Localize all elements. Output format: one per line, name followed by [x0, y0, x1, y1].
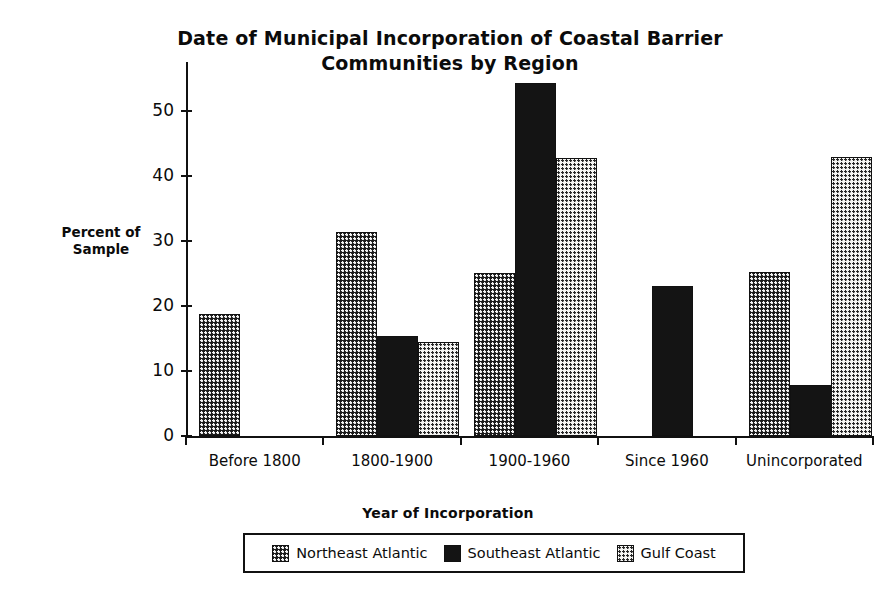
bar-northeast-atlantic — [749, 272, 790, 436]
x-axis-tick — [185, 436, 187, 445]
legend-swatch-icon-gulf-coast — [617, 545, 634, 562]
y-axis-tick-label: 30 — [134, 230, 174, 250]
x-axis-title: Year of Incorporation — [0, 505, 896, 521]
bar-northeast-atlantic — [336, 232, 377, 436]
x-axis-category-label: Unincorporated — [724, 452, 884, 470]
y-axis-tick-label: 10 — [134, 360, 174, 380]
y-axis-tick — [181, 305, 192, 307]
legend-swatch-icon-northeast-atlantic — [272, 545, 289, 562]
legend: Northeast Atlantic Southeast Atlantic Gu… — [243, 533, 745, 573]
y-axis-tick-label: 50 — [134, 100, 174, 120]
legend-item-southeast-atlantic: Southeast Atlantic — [444, 545, 601, 562]
y-axis-tick — [181, 110, 192, 112]
bar-southeast-atlantic — [652, 286, 693, 436]
y-axis-tick-label: 40 — [134, 165, 174, 185]
x-axis-tick — [735, 436, 737, 445]
legend-item-gulf-coast: Gulf Coast — [617, 545, 716, 562]
x-axis-tick — [597, 436, 599, 445]
bar-southeast-atlantic — [377, 336, 418, 436]
legend-swatch-icon-southeast-atlantic — [444, 545, 461, 562]
legend-label-gulf-coast: Gulf Coast — [641, 545, 716, 561]
x-axis-category-label: 1900-1960 — [450, 452, 610, 470]
x-axis-tick — [872, 436, 874, 445]
x-axis-line — [186, 436, 873, 438]
y-axis-tick-label: 0 — [134, 425, 174, 445]
y-axis-line — [186, 62, 188, 438]
legend-item-northeast-atlantic: Northeast Atlantic — [272, 545, 427, 562]
bar-southeast-atlantic — [790, 385, 831, 436]
y-axis-tick — [181, 240, 192, 242]
legend-label-southeast-atlantic: Southeast Atlantic — [468, 545, 601, 561]
x-axis-tick — [460, 436, 462, 445]
x-axis-category-label: Since 1960 — [587, 452, 747, 470]
bar-northeast-atlantic — [474, 273, 515, 436]
x-axis-category-label: 1800-1900 — [312, 452, 472, 470]
y-axis-tick-label: 20 — [134, 295, 174, 315]
chart-figure: Date of Municipal Incorporation of Coast… — [0, 0, 896, 614]
chart-title-line-1: Date of Municipal Incorporation of Coast… — [120, 26, 780, 51]
bar-gulf-coast — [418, 342, 459, 436]
bar-gulf-coast — [556, 158, 597, 436]
y-axis-tick — [181, 370, 192, 372]
x-axis-category-label: Before 1800 — [175, 452, 335, 470]
bar-gulf-coast — [831, 157, 872, 436]
bar-southeast-atlantic — [515, 83, 556, 436]
legend-label-northeast-atlantic: Northeast Atlantic — [296, 545, 427, 561]
bar-northeast-atlantic — [199, 314, 240, 436]
y-axis-tick — [181, 175, 192, 177]
x-axis-tick — [322, 436, 324, 445]
plot-area — [186, 62, 873, 438]
